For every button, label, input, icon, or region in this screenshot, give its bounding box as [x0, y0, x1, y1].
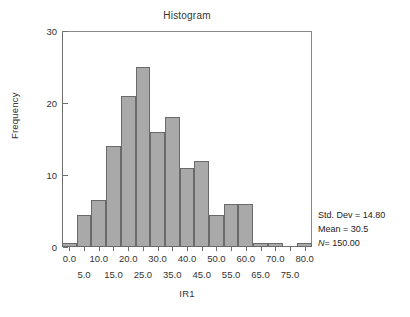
mean-annotation: Mean = 30.5 — [318, 222, 385, 236]
y-axis-title: Frequency — [9, 92, 20, 139]
x-axis-tick — [305, 247, 306, 251]
plot-area — [62, 31, 312, 247]
x-axis-tick-label: 80.0 — [295, 253, 314, 264]
x-axis-tick — [187, 247, 188, 251]
x-axis-tick-label: 70.0 — [266, 253, 285, 264]
y-axis-tick-label: 0 — [52, 242, 57, 253]
std-dev-annotation: Std. Dev = 14.80 — [318, 208, 385, 222]
histogram-figure: Histogram 0102030 Frequency 0.010.020.03… — [0, 0, 410, 317]
chart-title: Histogram — [62, 10, 312, 21]
x-axis-tick — [84, 247, 85, 251]
x-axis-tick-label: 40.0 — [178, 253, 197, 264]
y-axis-tick-label: 30 — [46, 26, 57, 37]
x-axis-tick-label: 65.0 — [251, 269, 270, 280]
x-axis-tick-label: 60.0 — [237, 253, 256, 264]
x-axis-tick — [172, 247, 173, 251]
x-axis-tick-label: 0.0 — [63, 253, 76, 264]
x-axis-tick-label: 55.0 — [222, 269, 241, 280]
histogram-bar — [136, 67, 151, 247]
histogram-bar — [238, 204, 253, 247]
x-axis-tick — [290, 247, 291, 251]
x-axis-tick — [158, 247, 159, 251]
x-axis-tick — [275, 247, 276, 251]
x-axis-tick — [99, 247, 100, 251]
histogram-bar — [77, 215, 92, 247]
x-axis-tick — [216, 247, 217, 251]
y-axis-tick — [63, 103, 68, 104]
histogram-bar — [194, 161, 209, 247]
x-axis-tick — [202, 247, 203, 251]
x-axis-tick-label: 50.0 — [207, 253, 226, 264]
x-axis-tick-label: 5.0 — [77, 269, 90, 280]
n-value: = 150.00 — [325, 238, 360, 248]
histogram-bar — [91, 200, 106, 247]
x-axis-tick-label: 75.0 — [281, 269, 300, 280]
x-axis-tick-label: 15.0 — [104, 269, 123, 280]
histogram-bar — [106, 146, 121, 247]
y-axis-tick — [63, 247, 68, 248]
histogram-bar — [121, 96, 136, 247]
x-axis-tick-label: 20.0 — [119, 253, 138, 264]
histogram-bar — [224, 204, 239, 247]
x-axis-tick — [69, 247, 70, 251]
y-axis-tick-label: 10 — [46, 170, 57, 181]
n-annotation: N= 150.00 — [318, 236, 385, 250]
x-axis-tick-label: 30.0 — [148, 253, 167, 264]
x-axis-title: IR1 — [62, 288, 312, 299]
histogram-bar — [209, 215, 224, 247]
y-axis-tick — [63, 31, 68, 32]
x-axis-tick — [143, 247, 144, 251]
y-axis-tick-label: 20 — [46, 98, 57, 109]
x-axis-tick-label: 25.0 — [134, 269, 153, 280]
x-axis-tick — [261, 247, 262, 251]
x-axis-tick-label: 10.0 — [90, 253, 109, 264]
x-axis-tick — [128, 247, 129, 251]
x-axis-tick-label: 45.0 — [192, 269, 211, 280]
histogram-bar — [165, 117, 180, 247]
x-axis-tick — [246, 247, 247, 251]
x-axis-tick-label: 35.0 — [163, 269, 182, 280]
histogram-bar — [150, 132, 165, 247]
x-axis-tick — [231, 247, 232, 251]
histogram-bar — [180, 168, 195, 247]
y-axis-tick — [63, 175, 68, 176]
stats-annotation-block: Std. Dev = 14.80 Mean = 30.5 N= 150.00 — [318, 208, 385, 250]
x-axis-tick — [113, 247, 114, 251]
histogram-bars — [62, 31, 312, 247]
